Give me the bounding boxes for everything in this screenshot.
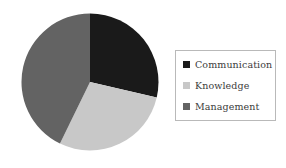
legend-swatch-icon [183,82,190,89]
legend-item-management[interactable]: Management [183,96,275,117]
legend-item-label: Management [195,96,259,117]
legend-swatch-icon [183,61,190,68]
chart-legend: Communication Knowledge Management [175,50,276,121]
pie-chart-figure: Communication Knowledge Management [0,0,286,168]
legend-item-label: Communication [195,54,272,75]
legend-item-communication[interactable]: Communication [183,54,275,75]
pie-svg [21,13,159,151]
legend-item-label: Knowledge [195,75,249,96]
legend-item-knowledge[interactable]: Knowledge [183,75,275,96]
pie-chart-graphic [21,13,159,151]
legend-swatch-icon [183,103,190,110]
